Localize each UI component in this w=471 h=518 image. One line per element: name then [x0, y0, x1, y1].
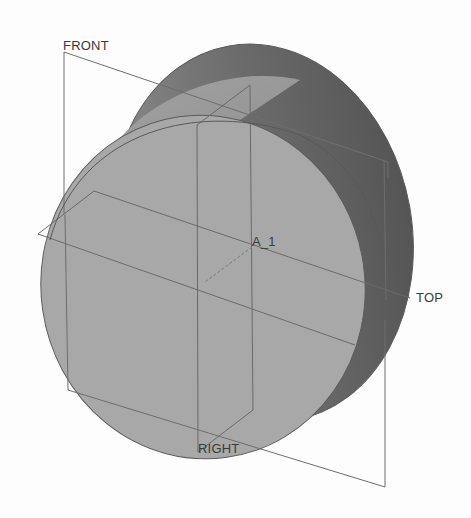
datum-label-front[interactable]: FRONT	[63, 38, 109, 53]
datum-label-top[interactable]: TOP	[416, 290, 443, 305]
datum-label-right[interactable]: RIGHT	[198, 441, 239, 456]
axis-label-a1[interactable]: A_1	[252, 234, 276, 249]
model-viewport[interactable]: FRONT TOP RIGHT A_1	[0, 0, 471, 518]
